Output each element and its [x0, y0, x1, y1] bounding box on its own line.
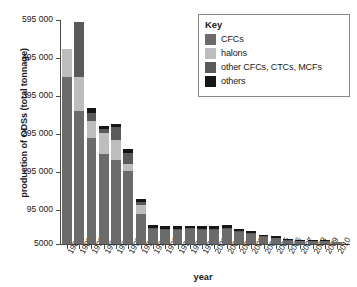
bar-2007	[295, 240, 305, 244]
bar-1993	[123, 149, 133, 244]
y-axis-tick: 295 000	[56, 134, 61, 135]
bar-1989	[74, 22, 84, 244]
bar-2008	[308, 240, 318, 244]
bar-segment	[136, 205, 146, 215]
bar-1988	[62, 49, 72, 244]
y-axis-tick: 95 000	[56, 210, 61, 211]
legend-label: halons	[221, 48, 247, 59]
y-axis-tick: 595 000	[56, 20, 61, 21]
bar-segment	[308, 241, 318, 244]
legend-swatch-icon	[205, 76, 216, 87]
bar-segment	[246, 234, 256, 244]
y-axis-tick: 395 000	[56, 96, 61, 97]
bar-segment	[222, 229, 232, 244]
bar-segment	[62, 77, 72, 244]
y-axis-tick: 495 000	[56, 58, 61, 59]
bar-segment	[74, 77, 84, 111]
bar-segment	[99, 133, 109, 154]
bar-segment	[111, 160, 121, 244]
y-axis-line	[60, 20, 61, 245]
y-axis-tick-label: 395 000	[0, 90, 53, 100]
legend-swatch-icon	[205, 48, 216, 59]
bar-segment	[111, 140, 121, 160]
y-axis-tick-label: 495 000	[0, 52, 53, 62]
bar-2004	[259, 235, 269, 244]
bar-2006	[283, 239, 293, 244]
bar-2000	[209, 226, 219, 244]
bar-segment	[148, 229, 158, 244]
legend-swatch-icon	[205, 34, 216, 45]
bar-1996	[160, 226, 170, 244]
ods-production-bar-chart: production of ODSs (total tonnage) year …	[0, 0, 357, 287]
y-axis-tick-label: 295 000	[0, 128, 53, 138]
bar-1990	[87, 108, 97, 244]
bar-segment	[259, 237, 269, 244]
bar-1997	[173, 226, 183, 244]
y-axis-tick-label: 195 000	[0, 166, 53, 176]
bar-segment	[111, 127, 121, 140]
bar-1998	[185, 226, 195, 244]
bar-2005	[271, 236, 281, 244]
legend-title: Key	[205, 19, 343, 30]
bar-segment	[271, 238, 281, 244]
bar-segment	[99, 154, 109, 244]
y-axis-tick: 5000	[56, 244, 61, 245]
bar-segment	[234, 232, 244, 244]
bar-2009	[320, 240, 330, 244]
legend-label: other CFCs, CTCs, MCFs	[221, 62, 322, 73]
bar-segment	[209, 230, 219, 244]
legend-item-2: other CFCs, CTCs, MCFs	[205, 60, 343, 74]
chart-legend: Key CFCshalonsother CFCs, CTCs, MCFsothe…	[198, 14, 350, 97]
bar-2001	[222, 225, 232, 244]
bar-segment	[74, 22, 84, 77]
bar-segment	[87, 121, 97, 137]
bar-1995	[148, 225, 158, 244]
bar-segment	[160, 230, 170, 244]
bar-segment	[123, 153, 133, 163]
bar-segment	[87, 113, 97, 121]
y-axis-tick-label: 595 000	[0, 14, 53, 24]
legend-swatch-icon	[205, 62, 216, 73]
bar-segment	[136, 214, 146, 244]
bar-segment	[320, 241, 330, 244]
bar-segment	[283, 241, 293, 244]
bar-segment	[123, 171, 133, 244]
legend-rows: CFCshalonsother CFCs, CTCs, MCFsothers	[205, 32, 343, 88]
bar-2002	[234, 229, 244, 244]
legend-label: CFCs	[221, 34, 244, 45]
legend-item-3: others	[205, 74, 343, 88]
bar-1999	[197, 226, 207, 244]
legend-item-0: CFCs	[205, 32, 343, 46]
y-axis-tick-label: 5000	[0, 238, 53, 248]
bar-1994	[136, 199, 146, 244]
x-axis-title: year	[58, 272, 348, 282]
bar-segment	[173, 230, 183, 244]
legend-label: others	[221, 76, 245, 87]
bar-segment	[123, 164, 133, 172]
bar-1991	[99, 126, 109, 244]
legend-item-1: halons	[205, 46, 343, 60]
bar-segment	[332, 242, 342, 244]
bar-segment	[197, 230, 207, 244]
y-axis-tick: 195 000	[56, 172, 61, 173]
bar-2010	[332, 242, 342, 244]
bar-segment	[62, 49, 72, 77]
bar-segment	[295, 241, 305, 244]
bar-segment	[185, 229, 195, 244]
bar-segment	[87, 138, 97, 244]
bar-segment	[74, 111, 84, 244]
y-axis-tick-label: 95 000	[0, 204, 53, 214]
bar-1992	[111, 124, 121, 244]
bar-2003	[246, 231, 256, 244]
